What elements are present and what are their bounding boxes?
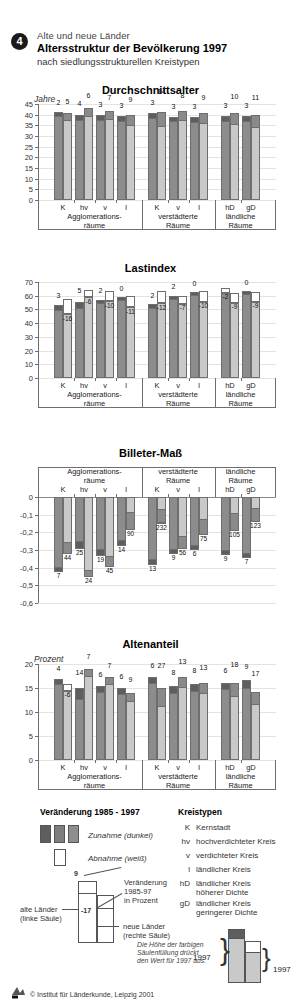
kreistyp-key-l: l bbox=[176, 865, 190, 874]
zunahme-segment-alte-K bbox=[54, 112, 63, 117]
category-tick bbox=[168, 494, 169, 497]
zunahme-segment-neue-l bbox=[199, 113, 208, 124]
bar-alte-K bbox=[54, 497, 63, 572]
y-axis-tick-label: -0,5 bbox=[0, 581, 33, 590]
category-label-v-5: v bbox=[176, 203, 180, 212]
category-label-l-6: l bbox=[198, 763, 200, 772]
bar-neue-hv bbox=[84, 669, 93, 760]
value-label-neue-l: 90 bbox=[127, 531, 134, 538]
y-axis-tick-label: 15 bbox=[0, 164, 33, 173]
group-separator bbox=[142, 467, 143, 497]
value-label-alte-l: 8 bbox=[193, 667, 197, 674]
y-axis-tick-label: 60 bbox=[0, 291, 33, 300]
bar-alte-l bbox=[117, 688, 126, 760]
legend-zunahme-label: Zunahme (dunkel) bbox=[88, 831, 153, 840]
y-axis-line bbox=[38, 497, 39, 603]
category-label-v-5: v bbox=[176, 381, 180, 390]
legend-alte-laender-line1: alte Länder bbox=[20, 905, 58, 914]
category-label-hv-1: hv bbox=[80, 485, 88, 494]
legend-year-left: 1997 bbox=[193, 953, 211, 962]
group-label-2-line1: ländliche bbox=[226, 467, 256, 476]
y-axis-tick-label: -0,3 bbox=[0, 546, 33, 555]
value-label-alte-hD: -2 bbox=[223, 294, 229, 301]
value-label-neue-l: -11 bbox=[126, 309, 135, 316]
value-label-neue-v: 13 bbox=[179, 658, 187, 665]
category-tick bbox=[116, 378, 117, 381]
group-label-1-line1: verstädterte bbox=[158, 390, 198, 399]
value-label-alte-v: 3 bbox=[99, 101, 103, 108]
category-label-v-5: v bbox=[176, 763, 180, 772]
bar-alte-l bbox=[117, 116, 126, 200]
value-label-alte-v: 19 bbox=[97, 557, 104, 564]
y-axis-tick-label: 10 bbox=[0, 708, 33, 717]
leader-line-alte bbox=[62, 909, 79, 910]
value-label-neue-v: 7 bbox=[108, 662, 112, 669]
bar-neue-gD bbox=[251, 302, 260, 378]
kreistyp-label-K: Kernstadt bbox=[196, 823, 230, 833]
category-label-hv-1: hv bbox=[80, 381, 88, 390]
bar-alte-v bbox=[96, 115, 105, 200]
gridline bbox=[38, 550, 276, 551]
value-label-neue-K: -12 bbox=[157, 305, 166, 312]
y-axis-line bbox=[38, 104, 39, 200]
page-header: 4 Alte und neue Länder Altersstruktur de… bbox=[0, 28, 301, 76]
abnahme-segment-neue-l bbox=[199, 291, 208, 302]
y-axis-tick-label: 45 bbox=[0, 100, 33, 109]
zunahme-segment-neue-l bbox=[199, 683, 208, 694]
y-axis-tick-label: -0,4 bbox=[0, 563, 33, 572]
value-label-alte-hv: 5 bbox=[78, 287, 82, 294]
value-label-alte-l: 0 bbox=[120, 285, 124, 292]
zunahme-segment-alte-l bbox=[190, 117, 199, 123]
bar-alte-hD bbox=[221, 683, 230, 760]
brace-left-1997: } bbox=[220, 935, 230, 965]
bar-neue-K bbox=[63, 691, 72, 760]
value-label-alte-K: 6 bbox=[151, 662, 155, 669]
bar-alte-K bbox=[148, 677, 157, 760]
value-label-alte-l: 6 bbox=[120, 673, 124, 680]
gridline bbox=[38, 603, 276, 604]
category-tick bbox=[168, 760, 169, 763]
group-separator bbox=[142, 760, 143, 790]
bar-alte-l bbox=[117, 297, 126, 378]
value-label-alte-K: 13 bbox=[149, 566, 156, 573]
legend-year-right: 1997 bbox=[273, 965, 291, 974]
zunahme-segment-alte-hv bbox=[75, 688, 84, 700]
legend-neue-laender-line2: (rechte Säule) bbox=[123, 931, 170, 940]
zunahme-segment-alte-l bbox=[117, 297, 126, 301]
kreistyp-label2-gD: geringerer Dichte bbox=[196, 908, 257, 918]
bar-neue-hv bbox=[84, 297, 93, 378]
abnahme-segment-neue-K bbox=[63, 684, 72, 691]
zunahme-segment-alte-l bbox=[190, 684, 199, 692]
value-label-neue-gD: 11 bbox=[252, 94, 259, 101]
category-tick bbox=[241, 378, 242, 381]
group-label-0-line1: Agglomerations- bbox=[67, 390, 122, 399]
value-label-alte-gD: 0 bbox=[245, 279, 249, 286]
group-separator bbox=[215, 378, 216, 408]
chart-title-1: Lastindex bbox=[0, 262, 301, 274]
abnahme-segment-neue-l bbox=[126, 296, 135, 307]
bar-alte-gD bbox=[242, 291, 251, 378]
kreistyp-key-hv: hv bbox=[176, 837, 190, 846]
category-tick bbox=[168, 378, 169, 381]
category-tick bbox=[241, 760, 242, 763]
leader-line-neue bbox=[97, 926, 119, 927]
gridline bbox=[38, 585, 276, 586]
category-label-K-4: K bbox=[154, 763, 159, 772]
chart-title-3: Altenanteil bbox=[0, 638, 301, 650]
header-subtitle: nach siedlungsstrukturellen Kreistypen bbox=[37, 56, 200, 67]
value-label-neue-K: -6 bbox=[65, 692, 71, 699]
category-tick bbox=[241, 494, 242, 497]
kreistyp-key-hD: hD bbox=[176, 879, 190, 888]
zunahme-segment-neue-hD bbox=[230, 683, 239, 697]
abnahme-segment-neue-v bbox=[178, 296, 187, 304]
y-axis-tick-label: 5 bbox=[0, 732, 33, 741]
legend-abnahme-label: Abnahme (weiß) bbox=[88, 854, 147, 863]
group-label-1-line2: Räume bbox=[166, 476, 190, 485]
zunahme-segment-alte-v bbox=[169, 296, 178, 301]
value-label-neue-gD: -9 bbox=[253, 303, 259, 310]
y-axis-tick-label: 10 bbox=[0, 174, 33, 183]
value-label-alte-K: 2 bbox=[151, 292, 155, 299]
abnahme-segment-neue-v bbox=[105, 291, 114, 302]
kreistyp-label-hv: hochverdichteter Kreis bbox=[196, 837, 276, 847]
value-label-neue-K: 14 bbox=[158, 88, 166, 95]
